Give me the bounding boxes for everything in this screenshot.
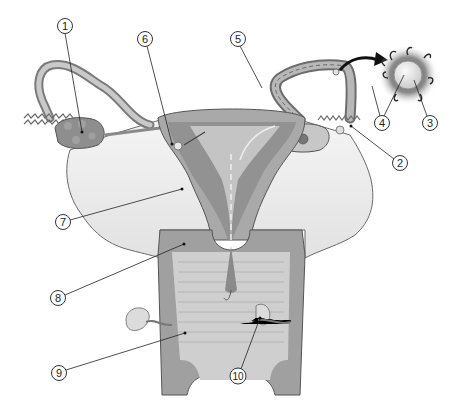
callout-10: 10 — [230, 368, 246, 384]
svg-text:2: 2 — [397, 157, 403, 169]
callout-3: 3 — [423, 116, 438, 131]
left-fallopian-tube — [24, 65, 150, 125]
callout-4: 4 — [375, 116, 390, 131]
callout-7: 7 — [56, 215, 71, 230]
svg-text:5: 5 — [235, 33, 241, 45]
svg-text:6: 6 — [142, 33, 148, 45]
svg-text:4: 4 — [379, 117, 385, 129]
callout-8: 8 — [51, 291, 66, 306]
callout-5: 5 — [231, 32, 246, 47]
reproductive-anatomy-diagram: 1 2 3 4 5 6 7 8 9 10 — [0, 0, 466, 412]
callout-6: 6 — [138, 32, 153, 47]
svg-text:7: 7 — [60, 216, 66, 228]
callout-2: 2 — [393, 156, 408, 171]
callout-1: 1 — [58, 19, 73, 34]
ovum — [378, 45, 438, 105]
anatomy-illustration: 1 2 3 4 5 6 7 8 9 10 — [0, 0, 466, 412]
callout-9: 9 — [52, 366, 67, 381]
svg-text:1: 1 — [62, 20, 68, 32]
svg-text:9: 9 — [56, 367, 62, 379]
svg-text:8: 8 — [55, 292, 61, 304]
svg-text:10: 10 — [232, 371, 244, 382]
svg-text:3: 3 — [427, 117, 433, 129]
